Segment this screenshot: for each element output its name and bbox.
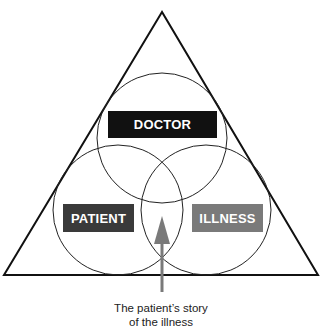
- patient-label: PATIENT: [63, 204, 134, 232]
- doctor-circle: [97, 73, 227, 203]
- illness-label: ILLNESS: [192, 204, 263, 232]
- arrow-head-icon: [154, 216, 170, 244]
- doctor-label: DOCTOR: [108, 111, 217, 138]
- caption-line-1: The patient’s story: [0, 301, 322, 315]
- caption-line-2: of the illness: [0, 315, 322, 329]
